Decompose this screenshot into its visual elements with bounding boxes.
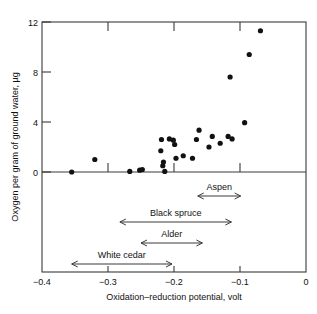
data-point (159, 137, 164, 142)
x-tick-label-0: 0 (303, 277, 308, 287)
x-tick-label-m02: −0.2 (165, 277, 183, 287)
data-point (140, 167, 145, 172)
data-point (190, 156, 195, 161)
range-annotation-label: Black spruce (150, 208, 202, 218)
range-annotation-label: Aspen (206, 182, 232, 192)
range-annotation-label: White cedar (98, 250, 146, 260)
data-point (172, 142, 177, 147)
data-point (69, 169, 74, 174)
x-tick-label-m04: −0.4 (33, 277, 51, 287)
data-point (173, 156, 178, 161)
chart-canvas: 12 8 4 0 −0.4 −0.3 −0.2 −0.1 0 (0, 0, 317, 314)
data-point (229, 136, 234, 141)
x-tick-label-m03: −0.3 (99, 277, 117, 287)
range-annotation-label: Alder (161, 229, 182, 239)
data-point (228, 74, 233, 79)
data-point (161, 159, 166, 164)
y-tick-labels: 12 8 4 0 (28, 18, 38, 178)
y-tick-label-12: 12 (28, 18, 38, 28)
data-point (242, 120, 247, 125)
data-point (206, 144, 211, 149)
x-tick-labels: −0.4 −0.3 −0.2 −0.1 0 (33, 277, 308, 287)
data-point (181, 153, 186, 158)
y-axis-title: Oxygen per gram of ground water, µg (10, 72, 20, 221)
y-tick-label-8: 8 (33, 68, 38, 78)
x-tick-label-m01: −0.1 (231, 277, 249, 287)
data-point (194, 137, 199, 142)
data-point (218, 141, 223, 146)
data-point (162, 169, 167, 174)
data-point (258, 28, 263, 33)
data-point (158, 148, 163, 153)
data-point (127, 169, 132, 174)
data-point (210, 134, 215, 139)
scatter-plot-figure: 12 8 4 0 −0.4 −0.3 −0.2 −0.1 0 (0, 0, 317, 314)
y-tick-label-0: 0 (33, 168, 38, 178)
x-axis-title: Oxidation–reduction potential, volt (106, 292, 242, 302)
data-point (196, 128, 201, 133)
data-point (247, 52, 252, 57)
y-tick-label-4: 4 (33, 118, 38, 128)
data-point (92, 157, 97, 162)
